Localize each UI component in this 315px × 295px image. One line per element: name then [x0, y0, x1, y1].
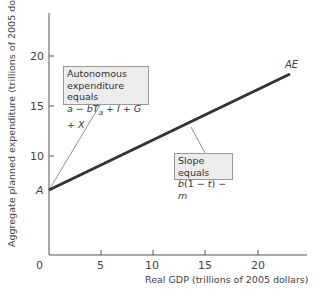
slope-m: m: [178, 190, 187, 201]
autonomous-expenditure-annotation: Autonomous expenditure equals a − bTa + …: [63, 66, 149, 105]
slope-open: (1 −: [184, 178, 208, 189]
y-tick-label-20: 20: [30, 50, 44, 63]
slope-close: ) −: [212, 178, 227, 189]
slope-formula: b(1 − t) − m: [178, 178, 229, 201]
point-a-label: A: [35, 184, 44, 197]
chart-canvas: 20 15 10 0 5 10 15 20 Real GDP (trillion…: [0, 0, 315, 295]
formula-X: X: [78, 119, 85, 130]
formula-plus3: +: [67, 119, 78, 130]
ae-label: AE: [284, 59, 299, 70]
x-tick-label-20: 20: [251, 259, 265, 272]
slope-annotation: Slope equals b(1 − t) − m: [174, 153, 233, 180]
slope-line1: Slope equals: [178, 155, 229, 178]
x-tick-label-5: 5: [97, 259, 104, 272]
autonomous-formula: a − bTa + I + G + X: [67, 103, 145, 131]
formula-minus-b: − b: [73, 103, 93, 114]
autonomous-line2: expenditure equals: [67, 80, 145, 103]
formula-plus2: +: [120, 103, 134, 114]
formula-plus1: +: [103, 103, 117, 114]
autonomous-line1: Autonomous: [67, 68, 145, 80]
y-axis-title: Aggregate planned expenditure (trillions…: [6, 0, 17, 247]
x-tick-label-15: 15: [198, 259, 212, 272]
y-tick-label-15: 15: [30, 100, 44, 113]
x-axis-title: Real GDP (trillions of 2005 dollars): [145, 274, 309, 285]
x-tick-label-10: 10: [145, 259, 159, 272]
formula-G: G: [134, 103, 141, 114]
origin-label: 0: [36, 259, 43, 272]
slope-leader-line: [191, 127, 205, 153]
y-tick-label-10: 10: [30, 150, 44, 163]
